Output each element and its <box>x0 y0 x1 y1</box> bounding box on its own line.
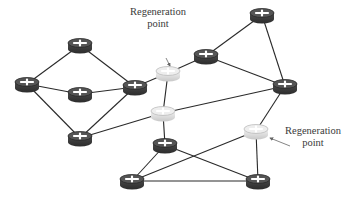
network-links <box>27 15 285 181</box>
regeneration-node-icon <box>244 125 268 140</box>
router-node-icon <box>68 88 92 103</box>
router-node-icon <box>246 175 270 190</box>
regeneration-node-icon <box>151 107 175 122</box>
regeneration-node-icon <box>156 67 180 82</box>
label-line-1: Regeneration <box>123 6 193 18</box>
link-n8-n9 <box>163 86 285 113</box>
arrow-icon <box>166 58 170 66</box>
router-node-icon <box>68 39 92 54</box>
link-n7-n8 <box>262 15 285 86</box>
label-line-1: Regeneration <box>278 125 346 137</box>
label-line-2: point <box>278 137 346 149</box>
label-line-2: point <box>123 18 193 30</box>
router-node-icon <box>273 80 297 95</box>
router-node-icon <box>68 132 92 147</box>
router-node-icon <box>120 175 144 190</box>
regen-label-2: Regenerationpoint <box>278 125 346 149</box>
annotation-arrows <box>166 58 290 146</box>
router-node-icon <box>15 78 39 93</box>
network-nodes <box>15 9 297 190</box>
router-node-icon <box>153 139 177 154</box>
router-node-icon <box>123 81 147 96</box>
link-n9-n12 <box>80 113 163 138</box>
router-node-icon <box>194 50 218 65</box>
link-n11-n14 <box>165 145 258 181</box>
regen-label-1: Regenerationpoint <box>123 6 193 30</box>
router-node-icon <box>250 9 274 24</box>
